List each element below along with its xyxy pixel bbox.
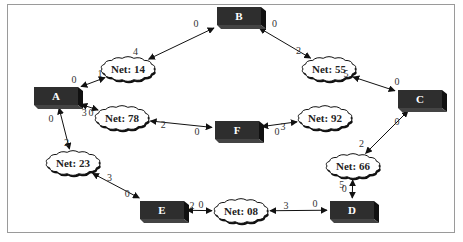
node-bottom	[140, 219, 189, 223]
node-bottom	[34, 105, 83, 109]
edge-b-net14	[149, 28, 214, 59]
net-label: Net: 66	[336, 160, 370, 172]
port-label-node: 0	[125, 188, 130, 199]
edge-b-net55	[259, 28, 310, 58]
net-net55[interactable]: Net: 55	[302, 57, 356, 84]
port-label-net: 2	[359, 138, 364, 149]
node-label: A	[52, 90, 60, 102]
port-label-net: 5	[339, 179, 344, 190]
port-label-node: 0	[275, 126, 280, 137]
net-net78[interactable]: Net: 78	[95, 106, 149, 133]
port-label-net: 2	[296, 45, 301, 56]
node-d[interactable]: D	[330, 201, 379, 223]
edge-f-net92	[262, 122, 297, 127]
node-label: E	[158, 204, 165, 216]
port-label-node: 0	[395, 116, 400, 127]
network-diagram: Net: 14Net: 55Net: 78Net: 92Net: 23Net: …	[0, 0, 463, 242]
node-label: F	[234, 124, 241, 136]
net-net23[interactable]: Net: 23	[46, 151, 100, 178]
node-f[interactable]: F	[215, 121, 264, 143]
net-net66[interactable]: Net: 66	[326, 154, 380, 181]
port-label-node: 0	[313, 198, 318, 209]
net-net08[interactable]: Net: 08	[214, 199, 268, 226]
node-e[interactable]: E	[140, 201, 189, 223]
edge-f-net78	[150, 121, 212, 127]
port-label-net: 5	[343, 68, 348, 79]
node-bottom	[217, 25, 266, 29]
edge-d-net08	[270, 210, 327, 211]
node-a[interactable]: A	[34, 87, 83, 109]
node-label: C	[416, 93, 424, 105]
node-bottom	[398, 108, 447, 112]
port-label-net: 3	[82, 107, 87, 118]
node-c[interactable]: C	[398, 90, 447, 112]
edge-e-net23	[93, 173, 140, 198]
port-label-node: 0	[72, 74, 77, 85]
node-bottom	[215, 139, 264, 143]
node-bottom	[330, 219, 379, 223]
node-b[interactable]: B	[217, 7, 266, 29]
edge-c-net55	[353, 77, 395, 91]
net-label: Net: 55	[312, 63, 346, 75]
port-label-node: 0	[89, 107, 94, 118]
port-label-net: 2	[64, 137, 69, 148]
net-net14[interactable]: Net: 14	[101, 57, 155, 84]
port-label-node: 0	[194, 18, 199, 29]
port-label-node: 0	[199, 199, 204, 210]
net-label: Net: 78	[105, 112, 139, 124]
port-label-net: 3	[281, 121, 286, 132]
port-label-net: 1	[98, 68, 103, 79]
port-label-net: 2	[161, 119, 166, 130]
port-label-node: 0	[272, 18, 277, 29]
port-label-net: 3	[283, 200, 288, 211]
port-label-net: 2	[190, 200, 195, 211]
net-label: Net: 08	[224, 205, 258, 217]
edge-c-net66	[366, 111, 408, 153]
port-label-node: 0	[49, 113, 54, 124]
port-label-net: 4	[133, 46, 138, 57]
node-label: B	[235, 10, 243, 22]
net-net92[interactable]: Net: 92	[298, 106, 352, 133]
port-label-node: 0	[195, 126, 200, 137]
node-label: D	[348, 204, 356, 216]
net-label: Net: 23	[56, 157, 90, 169]
net-label: Net: 92	[308, 112, 342, 124]
port-label-net: 3	[107, 172, 112, 183]
net-label: Net: 14	[111, 63, 145, 75]
port-label-node: 0	[395, 76, 400, 87]
